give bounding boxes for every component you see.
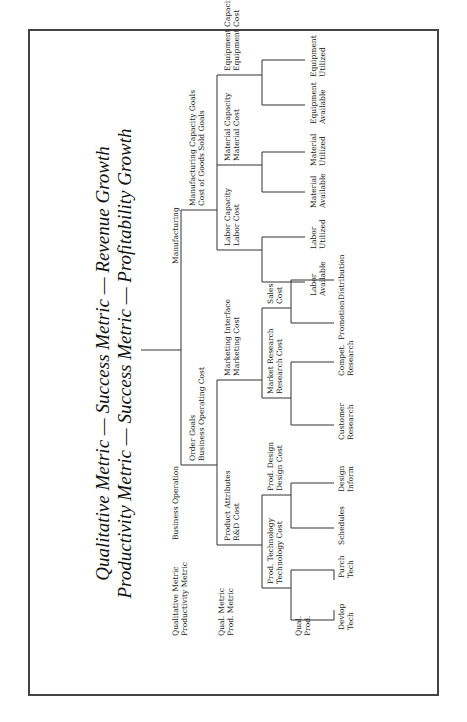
legend-level-3: Qual. Prod. [294, 616, 312, 636]
leaf-text: Available [318, 173, 327, 208]
node-business-operation: Business Operation [171, 466, 180, 540]
legend-level-2: Qual. Metric Prod. Metric [217, 588, 235, 636]
node-sales: Sales Cost [266, 284, 284, 304]
leaf-text: Research [346, 341, 355, 376]
metric-text: Technology Cost [275, 518, 284, 584]
metric-text: Labor Capacity [223, 188, 232, 246]
node-marketing-interface: Marketing Interface Marketing Cost [223, 299, 241, 376]
metric-text: Product Attributes [223, 470, 232, 541]
leaf-text: Labor [309, 261, 318, 296]
leaf-text: Distribution [337, 254, 346, 300]
leaf-labor-utilized: Labor Utilized [309, 219, 327, 249]
leaf-text: Tech [346, 556, 355, 579]
metric-text: Material Capacity [223, 93, 232, 161]
metric-text: Manufacturing Capacity Goals [188, 90, 197, 206]
metric-text: Cost [275, 284, 284, 304]
leaf-purch-tech: Purch Tech [337, 556, 355, 579]
node-material-capacity: Material Capacity Material Cost [223, 93, 241, 161]
leaf-text: Utilized [318, 35, 327, 77]
leaf-text: Utilized [318, 134, 327, 166]
leaf-text: Material [309, 173, 318, 208]
node-prod-design: Prod. Design Design Cost [266, 442, 284, 491]
leaf-labor-available: Labor Available [309, 261, 327, 296]
leaf-design-inform: Design Inform [337, 466, 355, 492]
leaf-text: Material [309, 134, 318, 166]
legend-text: Prod. Metric [226, 588, 235, 636]
leaf-schedules: Schedules [337, 506, 346, 545]
node-market-research: Market Research Research Cost [266, 328, 284, 394]
leaf-text: Labor [309, 219, 318, 249]
metric-text: Cost of Goods Sold Goals [197, 90, 206, 206]
legend-text: Qualitative Metric [171, 562, 180, 636]
leaf-text: Customer [337, 403, 346, 440]
title-line-2: Productivity Metric — Success Metric — P… [114, 29, 136, 698]
metric-text: Marketing Interface [223, 299, 232, 376]
leaf-equipment-available: Equipment Available [309, 82, 327, 124]
node-product-attributes: Product Attributes R&D Cost [223, 470, 241, 541]
node-equipment-capacity: Equipment Capacity Equipment Cost [223, 0, 241, 71]
metric-text: Prod. Technology [266, 518, 275, 584]
legend-text: Productivity Metric [180, 562, 189, 636]
metric-text: Design Cost [275, 442, 284, 491]
leaf-material-available: Material Available [309, 173, 327, 208]
node-prod-technology: Prod. Technology Technology Cost [266, 518, 284, 584]
leaf-text: Equipment [309, 35, 318, 77]
leaf-text: Available [318, 261, 327, 296]
leaf-compet-research: Compet. Research [337, 341, 355, 376]
leaf-text: Tech [346, 604, 355, 630]
metric-text: Equipment Capacity [223, 0, 232, 71]
leaf-text: Compet. [337, 341, 346, 376]
metric-text: Sales [266, 284, 275, 304]
metric-text: Market Research [266, 328, 275, 394]
org-tree-diagram: Qualitative Metric — Success Metric — Re… [28, 29, 441, 698]
metric-text: Business Operating Cost [197, 367, 206, 461]
metric-text: Equipment Cost [232, 0, 241, 71]
leaf-text: Purch [337, 556, 346, 579]
leaf-material-utilized: Material Utilized [309, 134, 327, 166]
metric-text: Order Goals [188, 367, 197, 461]
node-labor-capacity: Labor Capacity Labor Cost [223, 188, 241, 246]
leaf-distribution: Distribution [337, 254, 346, 300]
leaf-customer-research: Customer Research [337, 403, 355, 440]
legend-text: Prod. [303, 616, 312, 636]
leaf-text: Utilized [318, 219, 327, 249]
legend-text: Qual. Metric [217, 588, 226, 636]
title-line-1: Qualitative Metric — Success Metric — Re… [92, 29, 114, 698]
node-manufacturing-metrics: Manufacturing Capacity Goals Cost of Goo… [188, 90, 206, 206]
leaf-text: Devlop [337, 604, 346, 630]
leaf-text: Schedules [337, 506, 346, 545]
legend-text: Qual. [294, 616, 303, 636]
metric-text: Prod. Design [266, 442, 275, 491]
leaf-text: Research [346, 403, 355, 440]
leaf-equipment-utilized: Equipment Utilized [309, 35, 327, 77]
metric-text: Marketing Cost [232, 299, 241, 376]
metric-text: R&D Cost [232, 470, 241, 541]
leaf-text: Equipment [309, 82, 318, 124]
leaf-text: Inform [346, 466, 355, 492]
leaf-text: Design [337, 466, 346, 492]
leaf-text: Available [318, 82, 327, 124]
metric-text: Labor Cost [232, 188, 241, 246]
metric-text: Research Cost [275, 328, 284, 394]
node-manufacturing: Manufacturing [171, 207, 180, 264]
legend-level-1: Qualitative Metric Productivity Metric [171, 562, 189, 636]
node-business-operation-metrics: Order Goals Business Operating Cost [188, 367, 206, 461]
leaf-text: Promotion [337, 300, 346, 340]
metric-text: Material Cost [232, 93, 241, 161]
leaf-devlop-tech: Devlop Tech [337, 604, 355, 630]
leaf-promotion: Promotion [337, 300, 346, 340]
